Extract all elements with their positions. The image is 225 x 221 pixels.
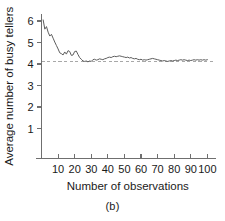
x-tick-label: 50 bbox=[118, 163, 130, 175]
x-tick-label: 100 bbox=[198, 163, 216, 175]
y-tick-label: 1 bbox=[27, 123, 33, 135]
line-chart: 123456102030405060708090100Number of obs… bbox=[0, 0, 225, 221]
y-axis-label: Average number of busy tellers bbox=[3, 7, 15, 166]
figure-panel: 123456102030405060708090100Number of obs… bbox=[0, 0, 225, 221]
x-tick-label: 20 bbox=[69, 163, 81, 175]
x-tick-label: 90 bbox=[185, 163, 197, 175]
x-tick-label: 70 bbox=[151, 163, 163, 175]
x-tick-label: 10 bbox=[52, 163, 64, 175]
x-tick-label: 60 bbox=[135, 163, 147, 175]
y-tick-label: 2 bbox=[27, 101, 33, 113]
y-tick-label: 4 bbox=[27, 58, 33, 70]
x-tick-label: 80 bbox=[168, 163, 180, 175]
data-series-line bbox=[43, 20, 207, 62]
y-tick-label: 3 bbox=[27, 80, 33, 92]
x-axis-label: Number of observations bbox=[67, 180, 189, 192]
y-tick-label: 6 bbox=[27, 15, 33, 27]
x-tick-label: 30 bbox=[85, 163, 97, 175]
y-tick-label: 5 bbox=[27, 37, 33, 49]
figure-caption: (b) bbox=[0, 200, 225, 212]
x-tick-label: 40 bbox=[102, 163, 114, 175]
